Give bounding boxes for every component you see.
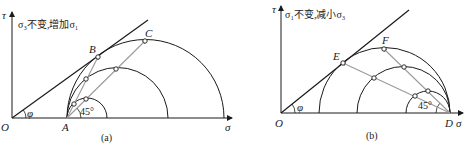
stress-path-top bbox=[67, 41, 145, 118]
angle-45-label: 45° bbox=[80, 106, 94, 117]
point-b-label: B bbox=[89, 43, 96, 55]
tau-axis-label: τ bbox=[272, 3, 277, 15]
origin-label: O bbox=[1, 121, 9, 133]
origin-label: O bbox=[275, 117, 283, 129]
phi-label: φ bbox=[297, 101, 303, 113]
failure-envelope bbox=[12, 20, 148, 118]
stress-path-top bbox=[384, 49, 450, 113]
point-f-label: F bbox=[381, 34, 389, 46]
angle-45-label: 45° bbox=[418, 100, 432, 111]
point-e-label: E bbox=[332, 50, 340, 62]
mohr-circle-diagram: τ σ₃不变,增加σ₁ O φ A B C 45° σ (a) τ bbox=[0, 0, 467, 147]
point-c-label: C bbox=[145, 27, 153, 39]
panel-b: τ σ₁不变,减小σ₃ O φ D E F 45° σ (b) bbox=[272, 3, 463, 142]
phi-label: φ bbox=[27, 107, 33, 119]
condition-note: σ₁不变,减小σ₃ bbox=[285, 8, 345, 20]
panel-a: τ σ₃不变,增加σ₁ O φ A B C 45° σ (a) bbox=[1, 9, 232, 144]
sigma-axis-label: σ bbox=[225, 121, 231, 133]
phi-angle-arc bbox=[23, 110, 26, 118]
caption-a: (a) bbox=[101, 132, 112, 144]
point-a-label: A bbox=[61, 121, 69, 133]
tau-axis-label: τ bbox=[2, 9, 7, 21]
point-markers bbox=[72, 39, 147, 106]
condition-note: σ₃不变,增加σ₁ bbox=[18, 18, 78, 30]
sigma-axis-label: σ bbox=[456, 117, 462, 129]
point-d-label: D bbox=[444, 117, 453, 129]
phi-angle-arc bbox=[292, 104, 295, 113]
caption-b: (b) bbox=[366, 130, 378, 142]
